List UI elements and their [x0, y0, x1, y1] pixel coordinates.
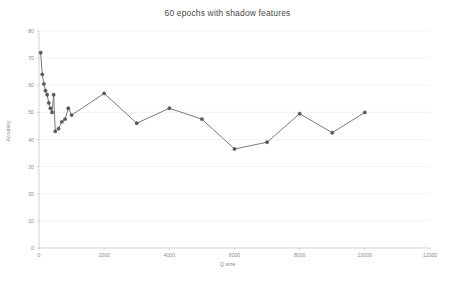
- x-axis-tick-label: 6000: [215, 252, 255, 258]
- x-axis-title: Q size: [0, 261, 455, 267]
- y-axis-tick-label: 30: [20, 164, 34, 170]
- y-axis-tick-label: 20: [20, 191, 34, 197]
- data-point: [44, 89, 47, 92]
- data-point: [39, 51, 42, 54]
- y-axis-tick-label: 0: [20, 245, 34, 251]
- x-axis-tick-label: 2000: [84, 252, 124, 258]
- y-axis-tick-label: 60: [20, 82, 34, 88]
- data-point: [331, 131, 334, 134]
- x-axis-tick-label: 10000: [345, 252, 385, 258]
- y-axis-tick-label: 80: [20, 28, 34, 34]
- y-axis-tick-label: 40: [20, 137, 34, 143]
- data-point: [233, 147, 236, 150]
- data-point: [60, 120, 63, 123]
- data-point: [42, 82, 45, 85]
- data-point: [265, 141, 268, 144]
- data-point: [47, 101, 50, 104]
- data-point: [67, 107, 70, 110]
- data-point: [168, 107, 171, 110]
- data-point: [70, 113, 73, 116]
- chart-plot-area: [0, 0, 455, 285]
- x-axis-tick-label: 0: [19, 252, 59, 258]
- data-point: [45, 93, 48, 96]
- data-point: [135, 122, 138, 125]
- data-point: [63, 117, 66, 120]
- x-axis-tick-label: 12000: [410, 252, 450, 258]
- data-point: [54, 130, 57, 133]
- data-point: [41, 73, 44, 76]
- y-axis-tick-label: 50: [20, 109, 34, 115]
- y-axis-tick-label: 10: [20, 218, 34, 224]
- y-axis-title: Accuracy: [5, 111, 11, 151]
- x-axis-tick-label: 4000: [149, 252, 189, 258]
- y-axis-tick-label: 70: [20, 55, 34, 61]
- data-point: [50, 111, 53, 114]
- data-point: [200, 117, 203, 120]
- data-point: [57, 127, 60, 130]
- data-point: [363, 111, 366, 114]
- data-point: [102, 92, 105, 95]
- data-point: [298, 112, 301, 115]
- data-point: [52, 93, 55, 96]
- chart-container: 60 epochs with shadow features 010203040…: [0, 0, 455, 285]
- data-series-line-0: [41, 53, 365, 149]
- x-axis-tick-label: 8000: [280, 252, 320, 258]
- data-point: [49, 107, 52, 110]
